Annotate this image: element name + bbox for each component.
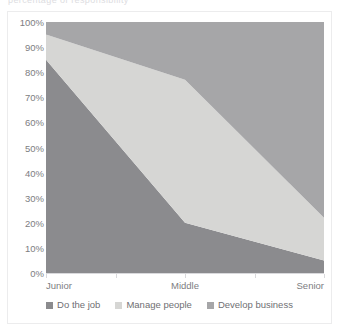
x-tickmark-1: [116, 274, 117, 278]
y-axis-tick-4: 60%: [25, 118, 44, 127]
y-axis-tick-0: 100%: [20, 18, 44, 27]
chart-legend: Do the jobManage peopleDevelop business: [8, 300, 331, 310]
y-axis-tick-6: 40%: [25, 169, 44, 178]
legend-item-develop-business[interactable]: Develop business: [207, 300, 293, 310]
y-axis-tick-8: 20%: [25, 219, 44, 228]
stacked-area-chart-figure: percentage of responsibility 100%90%80%7…: [0, 0, 340, 336]
legend-swatch-do-the-job-icon: [46, 302, 53, 309]
plot-wrapper: 100%90%80%70%60%50%40%30%20%10%0% Junior…: [8, 12, 331, 323]
x-tickmark-3: [255, 274, 256, 278]
legend-swatch-manage-people-icon: [115, 302, 122, 309]
plot-area: [46, 22, 324, 273]
legend-label-0: Do the job: [57, 300, 100, 310]
legend-item-manage-people[interactable]: Manage people: [115, 300, 192, 310]
series-layer: [46, 22, 324, 273]
chart-frame: 100%90%80%70%60%50%40%30%20%10%0% Junior…: [7, 11, 332, 324]
legend-label-1: Manage people: [126, 300, 192, 310]
x-axis-tick-labels: JuniorMiddleSenior: [46, 280, 324, 296]
y-axis-tick-5: 50%: [25, 144, 44, 153]
x-axis-tick-junior: Junior: [46, 280, 72, 292]
area-series-svg: [46, 22, 324, 273]
x-tickmark-2: [185, 274, 186, 278]
y-axis-tick-9: 10%: [25, 244, 44, 253]
x-axis-tick-senior: Senior: [297, 280, 324, 292]
y-axis-tick-2: 80%: [25, 68, 44, 77]
x-axis-tick-middle: Middle: [171, 280, 199, 292]
y-axis-tick-1: 90%: [25, 43, 44, 52]
legend-item-do-the-job[interactable]: Do the job: [46, 300, 100, 310]
clipped-title-text: percentage of responsibility: [8, 0, 158, 5]
y-axis-tick-10: 0%: [30, 269, 44, 278]
x-tickmark-0: [46, 274, 47, 278]
legend-label-2: Develop business: [218, 300, 293, 310]
x-tickmark-4: [324, 274, 325, 278]
y-axis-tick-7: 30%: [25, 194, 44, 203]
legend-swatch-develop-business-icon: [207, 302, 214, 309]
y-axis-tick-labels: 100%90%80%70%60%50%40%30%20%10%0%: [10, 22, 44, 273]
y-axis-tick-3: 70%: [25, 93, 44, 102]
